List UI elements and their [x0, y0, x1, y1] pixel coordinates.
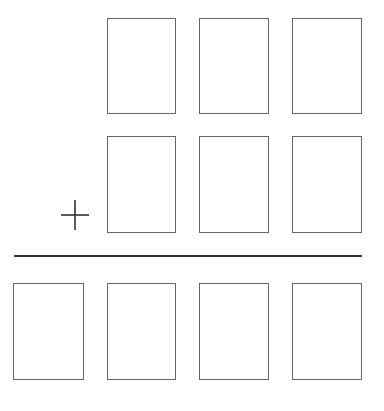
- sum-digit-box[interactable]: [292, 283, 362, 380]
- sum-digit-box[interactable]: [107, 283, 176, 380]
- sum-rule-line: [14, 255, 362, 257]
- addend-2-digit-box[interactable]: [199, 136, 269, 233]
- addend-2-digit-box[interactable]: [107, 136, 176, 233]
- addend-2-digit-box[interactable]: [292, 136, 362, 233]
- sum-digit-box[interactable]: [13, 283, 84, 380]
- plus-icon: [61, 200, 89, 230]
- addend-1-digit-box[interactable]: [107, 18, 176, 114]
- addend-1-digit-box[interactable]: [199, 18, 269, 114]
- addend-1-digit-box[interactable]: [292, 18, 362, 114]
- sum-digit-box[interactable]: [199, 283, 269, 380]
